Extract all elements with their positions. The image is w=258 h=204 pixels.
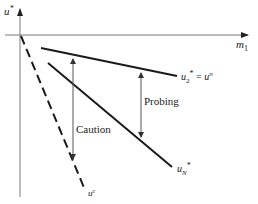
y-axis-label: u*	[4, 4, 14, 17]
certainty-equivalence-label: u2* = un	[181, 69, 213, 85]
dual-optimal-line	[48, 63, 172, 167]
certainty-equivalence-line	[41, 48, 177, 76]
caution-label: Caution	[76, 123, 111, 135]
dual-optimal-label: uN*	[177, 161, 191, 177]
cautious-control-label: uc	[88, 188, 96, 198]
control-law-diagram: u* m1 uc u2* = un uN* Caution Probing	[0, 0, 258, 204]
probing-label: Probing	[144, 95, 179, 107]
x-axis-label: m1	[236, 38, 248, 53]
cautious-control-line	[21, 36, 85, 190]
